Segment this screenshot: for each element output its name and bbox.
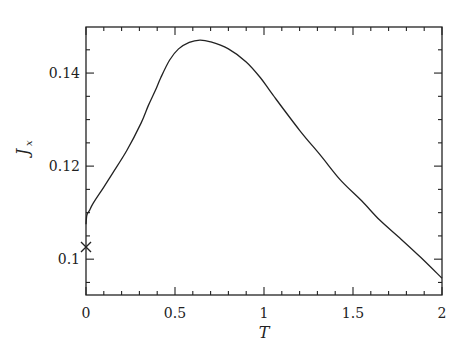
tick-labels: 00.511.520.10.120.14 — [49, 65, 447, 321]
y-tick-label: 0.12 — [49, 158, 80, 174]
y-tick-label: 0.14 — [49, 65, 80, 81]
data-curve — [86, 40, 442, 278]
y-axis-label: J x — [13, 140, 34, 158]
x-axis-label: T — [259, 323, 271, 342]
x-tick-label: 0 — [82, 305, 91, 321]
y-tick-label: 0.1 — [58, 251, 80, 267]
x-tick-label: 1 — [260, 305, 269, 321]
x-tick-label: 0.5 — [164, 305, 186, 321]
x-tick-label: 2 — [438, 305, 447, 321]
y-axis-label-subscript: x — [23, 140, 34, 146]
plot-frame — [86, 27, 442, 295]
x-tick-label: 1.5 — [342, 305, 364, 321]
line-chart: 00.511.520.10.120.14 T J x — [0, 0, 466, 359]
y-axis-label-main: J — [13, 147, 32, 158]
axis-ticks — [86, 27, 442, 295]
